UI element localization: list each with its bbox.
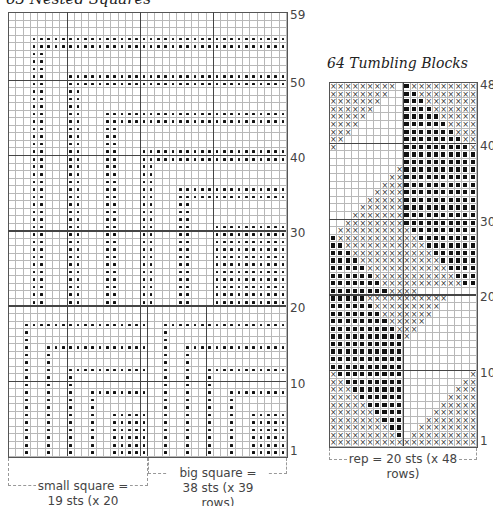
chart-cell <box>31 261 38 269</box>
chart-cell <box>126 88 133 96</box>
chart-cell <box>265 442 272 450</box>
row-number: 50 <box>290 76 305 90</box>
chart-cell <box>163 21 170 29</box>
chart-cell <box>16 314 23 322</box>
chart-cell <box>38 284 45 292</box>
chart-cell <box>111 269 118 277</box>
chart-cell <box>148 111 155 119</box>
filled-cell <box>448 227 455 235</box>
chart-cell <box>258 382 265 390</box>
chart-cell <box>46 186 53 194</box>
filled-cell <box>403 159 410 167</box>
chart-cell <box>228 179 235 187</box>
chart-cell <box>89 81 96 89</box>
chart-cell <box>38 81 45 89</box>
chart-cell <box>185 141 192 149</box>
chart-cell <box>177 186 184 194</box>
chart-cell <box>228 13 235 21</box>
filled-cell <box>345 311 352 319</box>
chart-cell <box>9 111 16 119</box>
chart-cell <box>199 291 206 299</box>
chart-cell <box>418 356 425 364</box>
chart-cell <box>38 51 45 59</box>
chart-cell <box>9 254 16 262</box>
chart-cell <box>9 246 16 254</box>
chart-cell <box>280 246 287 254</box>
chart-cell <box>207 322 214 330</box>
chart-cell <box>272 156 279 164</box>
chart-cell <box>272 284 279 292</box>
chart-cell <box>272 434 279 442</box>
chart-cell <box>16 412 23 420</box>
chart-cell <box>381 121 388 129</box>
filled-cell <box>426 159 433 167</box>
chart-cell <box>141 254 148 262</box>
filled-cell <box>411 129 418 137</box>
chart-cell <box>9 103 16 111</box>
chart-cell <box>228 276 235 284</box>
chart-cell <box>53 367 60 375</box>
filled-cell <box>418 220 425 228</box>
chart-cell <box>31 201 38 209</box>
chart-cell <box>236 344 243 352</box>
chart-cell <box>433 386 440 394</box>
chart-cell <box>24 389 31 397</box>
chart-cell <box>185 261 192 269</box>
chart-cell <box>126 412 133 420</box>
chart-cell <box>38 382 45 390</box>
chart-cell <box>243 36 250 44</box>
chart-cell <box>82 21 89 29</box>
chart-cell <box>265 246 272 254</box>
chart-cell <box>53 344 60 352</box>
chart-cell <box>89 209 96 217</box>
chart-cell <box>38 88 45 96</box>
chart-cell <box>228 156 235 164</box>
chart-cell <box>243 337 250 345</box>
chart-cell <box>126 291 133 299</box>
chart-cell <box>455 356 462 364</box>
chart-cell <box>265 88 272 96</box>
chart-cell <box>243 261 250 269</box>
chart-cell <box>148 261 155 269</box>
chart-cell <box>258 201 265 209</box>
chart-cell <box>236 118 243 126</box>
chart-cell <box>243 239 250 247</box>
chart-cell <box>250 141 257 149</box>
chart-cell <box>207 397 214 405</box>
chart-cell <box>462 348 469 356</box>
chart-cell <box>24 13 31 21</box>
chart-cell <box>280 13 287 21</box>
chart-cell <box>250 209 257 217</box>
chart-cell <box>192 246 199 254</box>
chart-cell <box>24 58 31 66</box>
chart-cell <box>280 43 287 51</box>
chart-cell <box>148 389 155 397</box>
chart-cell <box>24 126 31 134</box>
chart-cell <box>236 314 243 322</box>
filled-cell <box>448 189 455 197</box>
filled-cell <box>352 303 359 311</box>
chart-cell <box>243 111 250 119</box>
chart-cell <box>31 103 38 111</box>
chart-cell <box>111 322 118 330</box>
chart-cell <box>462 326 469 334</box>
chart-cell <box>82 284 89 292</box>
chart-cell <box>192 171 199 179</box>
chart-cell <box>126 81 133 89</box>
chart-cell <box>352 151 359 159</box>
chart-cell <box>199 81 206 89</box>
filled-cell <box>367 341 374 349</box>
chart-cell <box>258 269 265 277</box>
chart-cell <box>243 51 250 59</box>
chart-cell <box>31 66 38 74</box>
filled-cell <box>433 159 440 167</box>
chart-cell <box>53 246 60 254</box>
chart-cell <box>46 322 53 330</box>
chart-cell <box>89 359 96 367</box>
chart-cell <box>207 389 214 397</box>
chart-cell <box>170 141 177 149</box>
chart-cell <box>228 261 235 269</box>
chart-cell <box>97 352 104 360</box>
chart-cell <box>97 449 104 457</box>
chart-cell <box>104 239 111 247</box>
